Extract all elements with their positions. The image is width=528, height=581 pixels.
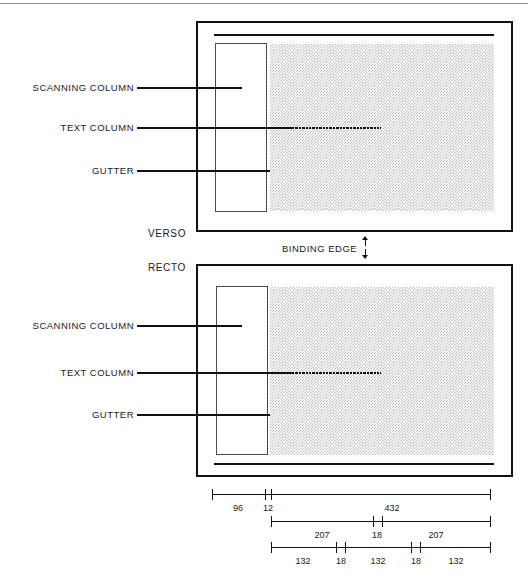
ruler-row-1-value-2: 432	[384, 503, 399, 513]
ruler-row-2-value-1: 18	[372, 530, 382, 540]
verso-callout-label-scanning-column: SCANNING COLUMN	[18, 82, 134, 93]
top-hairline-rule	[0, 3, 528, 4]
verso-leader-gutter	[137, 170, 270, 172]
figure-canvas: SCANNING COLUMN TEXT COLUMN GUTTER VERSO…	[0, 0, 528, 581]
binding-edge-label: BINDING EDGE	[282, 243, 357, 254]
binding-arrow-shaft-up	[365, 240, 366, 246]
ruler-row-2-tick-end	[490, 516, 491, 527]
ruler-row-1-value-0: 96	[233, 503, 243, 513]
ruler-row-3-tick-end	[490, 542, 491, 553]
ruler-row-1-tick-2	[271, 489, 272, 500]
ruler-row-3-line	[271, 547, 491, 548]
recto-callout-label-text-column: TEXT COLUMN	[52, 367, 134, 378]
recto-leader-scanning-column	[137, 325, 242, 327]
ruler-row-3-tick-2	[345, 542, 346, 553]
verso-leader-text-column	[137, 127, 292, 129]
ruler-row-2-value-0: 207	[314, 530, 329, 540]
ruler-row-3-tick-1	[336, 542, 337, 553]
arrow-head-down-icon	[362, 255, 368, 259]
recto-leader-gutter	[137, 414, 270, 416]
ruler-row-2-value-2: 207	[428, 530, 443, 540]
recto-callout-label-gutter: GUTTER	[72, 409, 134, 420]
ruler-row-1-value-1: 12	[263, 503, 273, 513]
verso-side-label: VERSO	[148, 228, 186, 239]
ruler-row-3-value-1: 18	[336, 556, 346, 566]
ruler-row-2-line	[271, 521, 491, 522]
ruler-row-3-value-4: 132	[448, 556, 463, 566]
ruler-row-3-value-3: 18	[411, 556, 421, 566]
verso-leader-scanning-column	[137, 87, 242, 89]
ruler-row-3-value-2: 132	[370, 556, 385, 566]
verso-head-rule	[214, 34, 494, 36]
ruler-row-2-tick-start	[271, 516, 272, 527]
ruler-row-3-value-0: 132	[295, 556, 310, 566]
ruler-row-1-tick-1	[265, 489, 266, 500]
verso-leader-text-column-dotted	[292, 127, 381, 129]
ruler-row-2-tick-1	[373, 516, 374, 527]
recto-callout-label-scanning-column: SCANNING COLUMN	[18, 320, 134, 331]
ruler-row-3-tick-3	[411, 542, 412, 553]
ruler-row-1-tick-end	[490, 489, 491, 500]
ruler-row-1-line	[212, 494, 491, 495]
recto-leader-text-column-dotted	[292, 372, 381, 374]
ruler-row-2-tick-2	[382, 516, 383, 527]
recto-scanning-column-box	[216, 286, 268, 455]
verso-callout-label-gutter: GUTTER	[72, 165, 134, 176]
ruler-row-3-tick-start	[271, 542, 272, 553]
ruler-row-3-tick-4	[420, 542, 421, 553]
recto-foot-rule	[214, 463, 494, 465]
recto-side-label: RECTO	[148, 262, 186, 273]
verso-callout-label-text-column: TEXT COLUMN	[52, 122, 134, 133]
ruler-row-1-tick-start	[212, 489, 213, 500]
recto-leader-text-column	[137, 372, 292, 374]
